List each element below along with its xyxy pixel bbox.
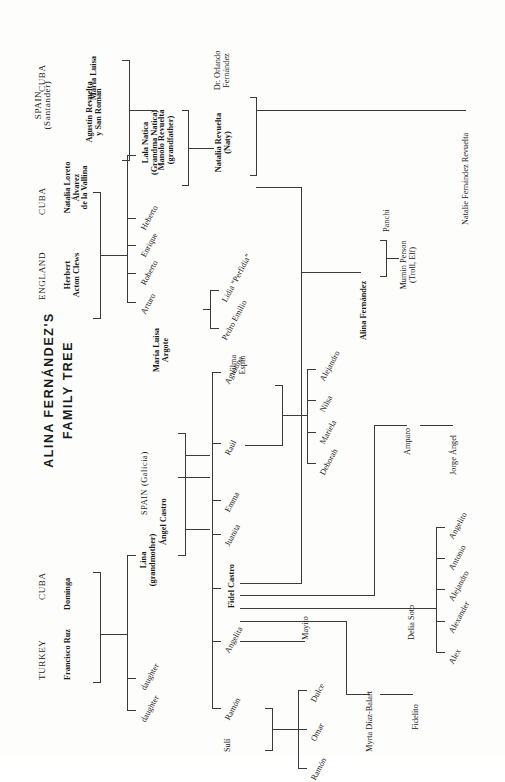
descent-line-delia-children (413, 608, 436, 609)
sibling-bar-ruz (127, 555, 128, 710)
descent-line-mumin (386, 258, 399, 259)
union-line-fidel-naty (240, 583, 302, 584)
union-line-fidel-delia (240, 608, 412, 609)
marriage-tick-orlando (250, 97, 257, 98)
person-mayito: Mayito (302, 570, 311, 640)
person-maria-luisa: María Luisa (90, 10, 99, 100)
person-alejandro-raul: Alejandro (319, 350, 342, 383)
person-fidel-castro: Fidel Castro (228, 518, 237, 608)
marriage-tick-lina (178, 555, 186, 556)
person-roberto: Roberto (140, 259, 160, 287)
marriage-tick-alina (380, 276, 387, 277)
country-label-cuba-revuelta: CUBA (38, 0, 47, 92)
marriage-tick-manolo (182, 110, 189, 111)
person-emma: Emma (224, 491, 242, 514)
child-tick-alexander (436, 621, 445, 622)
person-fidelito: Fidelito (412, 660, 421, 730)
child-tick-mariela (307, 432, 316, 433)
person-raul: Raúl (224, 439, 239, 457)
descent-line-ruz (100, 634, 127, 635)
person-alejandro-delia: Alejandro (448, 570, 471, 603)
marriage-tick-maria-luisa (122, 60, 130, 61)
descent-line-natalie (256, 110, 466, 111)
descent-line-amparo (374, 425, 407, 426)
person-alexander: Alexander (448, 600, 472, 635)
child-tick-deborah (307, 463, 316, 464)
descent-line-alina (301, 272, 361, 273)
marriage-line-angel-lina (185, 477, 186, 555)
union-line-naty-fidel (256, 187, 302, 188)
descent-line-revuelta (129, 110, 157, 111)
person-omar: Omar (310, 722, 326, 743)
descent-line-argote-children (185, 455, 210, 456)
person-amparo: Amparo (404, 385, 413, 455)
person-panchi: Panchi (383, 162, 392, 232)
child-tick-daughter-1 (127, 678, 136, 679)
union-line-fidel-myrta (240, 621, 347, 622)
child-tick-alejandro-d (436, 589, 445, 590)
marriage-tick-francisco (93, 682, 101, 683)
marriage-tick-panchi (380, 240, 387, 241)
descent-line-raul-vilma (282, 415, 307, 416)
child-tick-omar (298, 729, 307, 730)
person-enrique: Enrique (140, 232, 160, 259)
child-tick-raul (212, 443, 221, 444)
marriage-tick-naty (250, 175, 257, 176)
marriage-tick-argote (178, 433, 186, 434)
page-title: ALINA FERNÁNDEZ'S FAMILY TREE (40, 290, 78, 490)
child-tick-pedro-emilio (210, 328, 219, 329)
person-angel-castro: Ángel Castro (160, 450, 169, 545)
descent-line-ramon-suli (272, 729, 298, 730)
person-lina-grandmother: Lina (grandmother) (140, 500, 157, 620)
descent-line-jorge-angel (420, 425, 453, 426)
union-line-angelita-mayito (240, 641, 305, 642)
sibling-bar-raul-children (307, 369, 308, 463)
person-maria-luisa-argote: María Luisa Argote (153, 300, 170, 400)
person-dulce: Dulce (310, 683, 327, 705)
sibling-bar-lina-children (212, 372, 213, 708)
child-tick-antonio (436, 558, 445, 559)
marriage-tick-suli (265, 750, 273, 751)
person-heberto: Heberto (140, 204, 160, 232)
marriage-tick-dominga (93, 572, 101, 573)
person-vilma-espin: Vilma Espín (230, 325, 247, 405)
person-nilsa: Nilsa (319, 395, 335, 415)
marriage-tick-vilma (275, 385, 283, 386)
child-tick-alejandro-r (307, 369, 316, 370)
argote-children-stem (203, 309, 211, 310)
person-deborah: Deborah (319, 448, 340, 477)
person-ramon: Ramón (224, 697, 243, 722)
person-angelito: Angelito (448, 511, 469, 541)
marriage-line-ruz (100, 572, 101, 682)
marriage-tick-raul (245, 445, 283, 446)
descent-line-angel-lina (185, 529, 210, 530)
descent-line-manolo-natica (188, 148, 214, 149)
child-tick-angelito (436, 527, 445, 528)
marriage-line-angel-argote (185, 433, 186, 479)
country-label-cuba-ruz: CUBA (38, 490, 47, 600)
child-tick-nilsa (307, 400, 316, 401)
descent-line-clews (100, 255, 127, 256)
child-tick-alex (436, 652, 445, 653)
person-myrta-diaz-balart: Myrta Díaz-Balart (366, 642, 375, 752)
marriage-tick-natica (182, 185, 189, 186)
child-tick-dulce (298, 690, 307, 691)
marriage-tick-herbert (93, 318, 101, 319)
sibling-bar-clews (127, 155, 128, 303)
person-jorge-angel: Jorge Ángel (450, 395, 459, 475)
child-tick-daughter-2 (127, 710, 136, 711)
child-tick-juanita (212, 534, 221, 535)
country-label-spain-galicia: SPAIN (Galicia) (141, 395, 150, 515)
person-alina-fernandez: Alina Fernández (360, 230, 369, 340)
marriage-tick-agustin (122, 160, 130, 161)
child-tick-lidia (210, 290, 219, 291)
person-delia-soto: Delia Soto (408, 570, 417, 640)
child-tick-enrique (127, 245, 136, 246)
descent-line-angel-argote (185, 477, 210, 478)
descent-line-fidelito (380, 694, 413, 695)
person-ramon-child: Ramón (310, 757, 329, 782)
person-mumin-person: Mumin Person (Troll, Elf) (400, 210, 417, 320)
person-dr-orlando-fernandez: Dr. Orlando Fernández (214, 23, 231, 118)
person-dominga: Dominga (64, 530, 73, 610)
child-tick-ramon-child (298, 768, 307, 769)
